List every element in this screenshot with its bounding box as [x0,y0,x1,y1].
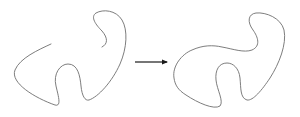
diagram-canvas: open curve transforms to closed curve [0,0,300,117]
diagram-svg [0,0,300,117]
closed-curve-shape [174,13,285,107]
open-curve-shape [14,11,126,105]
